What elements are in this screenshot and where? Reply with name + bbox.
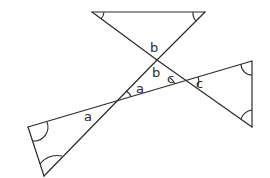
angle-arc-top-right: [193, 12, 196, 21]
label-b-inner: b: [152, 65, 160, 80]
angle-diagram: b b a a c c: [0, 0, 270, 178]
left-edge: [28, 127, 44, 176]
label-c-outer: c: [196, 76, 203, 91]
top-right-edge: [157, 12, 205, 60]
angle-arc-a-inner: [126, 91, 131, 97]
label-c-inner: c: [167, 71, 174, 86]
top-left-edge: [92, 12, 157, 60]
angle-arc-top-left: [101, 12, 104, 19]
line-b-to-left-bottom: [44, 60, 157, 176]
left-triangle: [28, 122, 62, 176]
angle-arc-right-top: [241, 64, 252, 75]
label-b-top: b: [150, 40, 158, 55]
angle-arc-left-bottom: [40, 156, 62, 164]
top-triangle: [92, 12, 205, 60]
label-a-inner: a: [136, 81, 144, 96]
label-a-outer: a: [84, 109, 92, 124]
angle-arc-right-bottom: [241, 110, 252, 119]
